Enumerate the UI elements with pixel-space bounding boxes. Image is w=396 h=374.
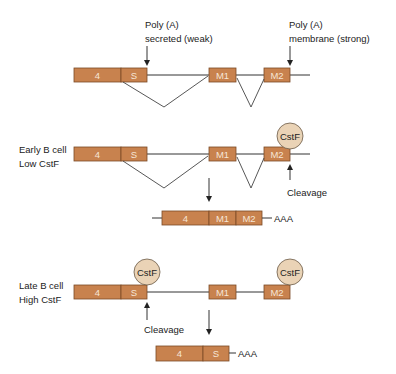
exon-M1-label: M1 bbox=[216, 287, 229, 298]
late-label-line1: Late B cell bbox=[19, 280, 63, 291]
polyA-membrane-label-line2: membrane (strong) bbox=[289, 33, 370, 44]
exon-4-label: 4 bbox=[95, 149, 100, 160]
exon-M2-label: M2 bbox=[242, 213, 255, 224]
exon-M2-label: M2 bbox=[270, 149, 283, 160]
exon-M1-label: M1 bbox=[216, 213, 229, 224]
late-b-cell-section: Late B cell High CstF 4 S M1 M2 CstF Cst… bbox=[19, 259, 303, 361]
late-label-line2: High CstF bbox=[19, 294, 61, 305]
exon-4-label: 4 bbox=[177, 348, 182, 359]
polyA-tail-label: AAA bbox=[274, 213, 294, 224]
exon-S-label: S bbox=[131, 287, 137, 298]
early-b-cell-section: Early B cell Low CstF 4 S M1 M2 CstF Cle… bbox=[19, 123, 327, 225]
early-label-line2: Low CstF bbox=[19, 158, 59, 169]
polyA-secreted-label-line2: secreted (weak) bbox=[145, 33, 213, 44]
arrow-up-icon bbox=[144, 302, 150, 308]
arrow-down-icon bbox=[144, 60, 150, 66]
exon-4-label: 4 bbox=[183, 213, 188, 224]
polyA-tail-label: AAA bbox=[238, 348, 258, 359]
exon-S-label: S bbox=[213, 348, 219, 359]
exon-M1-label: M1 bbox=[216, 149, 229, 160]
membrane-mrna-product: 4 M1 M2 AAA bbox=[152, 211, 294, 225]
secreted-mrna-product: 4 S AAA bbox=[156, 346, 258, 361]
exon-S-label: S bbox=[131, 149, 137, 160]
gene-structure-top: Poly (A) secreted (weak) Poly (A) membra… bbox=[74, 19, 370, 107]
exon-M2-label: M2 bbox=[270, 70, 283, 81]
arrow-down-icon bbox=[206, 329, 212, 335]
cstf-label: CstF bbox=[280, 131, 300, 142]
early-label-line1: Early B cell bbox=[19, 144, 67, 155]
exon-M2-label: M2 bbox=[270, 287, 283, 298]
polyA-membrane-label-line1: Poly (A) bbox=[289, 19, 323, 30]
arrow-down-icon bbox=[287, 60, 293, 66]
exon-4-label: 4 bbox=[95, 70, 100, 81]
exon-4-label: 4 bbox=[95, 287, 100, 298]
splice-m1-to-m2 bbox=[237, 157, 264, 188]
exon-S-label: S bbox=[131, 70, 137, 81]
polyA-secreted-label-line1: Poly (A) bbox=[145, 19, 179, 30]
splice-m1-to-m2 bbox=[237, 78, 264, 107]
cstf-label: CstF bbox=[280, 267, 300, 278]
exon-M1-label: M1 bbox=[216, 70, 229, 81]
arrow-up-icon bbox=[287, 164, 293, 170]
arrow-down-icon bbox=[206, 196, 212, 202]
cstf-label: CstF bbox=[137, 267, 157, 278]
cleavage-label: Cleavage bbox=[144, 324, 184, 335]
cleavage-label: Cleavage bbox=[287, 187, 327, 198]
ig-heavy-chain-alternative-polyadenylation-diagram: Poly (A) secreted (weak) Poly (A) membra… bbox=[0, 0, 396, 374]
